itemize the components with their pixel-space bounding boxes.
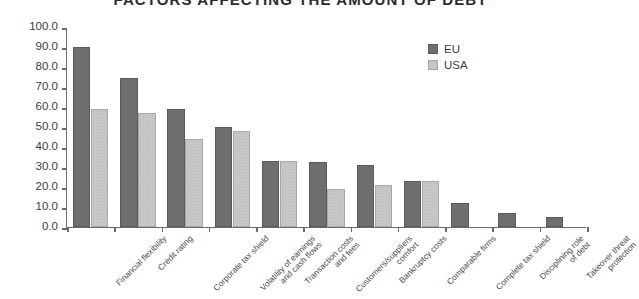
- bar-usa: [327, 189, 345, 227]
- x-axis-label: Complete tax shield: [495, 234, 553, 292]
- legend-swatch-eu: [428, 44, 438, 54]
- x-axis-tick-mark: [67, 227, 69, 232]
- chart-title: FACTORS AFFECTING THE AMOUNT OF DEBT: [0, 0, 601, 8]
- bar-eu: [73, 47, 91, 227]
- bar-eu: [167, 109, 185, 227]
- legend-swatch-usa: [428, 60, 438, 70]
- y-axis-tick-label: 10.0: [36, 200, 58, 212]
- y-axis-tick-label: 70.0: [36, 80, 58, 92]
- y-axis-tick-label: 100.0: [29, 20, 58, 32]
- y-axis-tick-label: 40.0: [36, 140, 58, 152]
- bar-group: [209, 28, 256, 227]
- y-axis-tick-label: 30.0: [36, 160, 58, 172]
- y-axis-tick-label: 60.0: [36, 100, 58, 112]
- bar-usa: [138, 113, 156, 227]
- bar-eu: [404, 181, 422, 227]
- bar-eu: [309, 162, 327, 227]
- x-axis-tick-mark: [209, 227, 211, 232]
- x-axis-tick-mark: [351, 227, 353, 232]
- bar-eu: [262, 161, 280, 227]
- bar-group: [351, 28, 398, 227]
- bar-group: [492, 28, 539, 227]
- plot-area: 100.090.080.070.060.050.040.030.020.010.…: [66, 28, 586, 228]
- y-axis-tick-label: 20.0: [36, 180, 58, 192]
- y-axis-tick-label: 50.0: [36, 120, 58, 132]
- y-axis-tick-label: 80.0: [36, 60, 58, 72]
- bar-usa: [422, 181, 440, 227]
- bar-usa: [375, 185, 393, 227]
- x-axis-tick-mark: [162, 227, 164, 232]
- bar-group: [256, 28, 303, 227]
- bar-usa: [91, 109, 109, 227]
- y-axis-tick-label: 90.0: [36, 40, 58, 52]
- bar-usa: [280, 161, 298, 227]
- legend-label: EU: [444, 43, 460, 55]
- x-axis-tick-mark: [256, 227, 258, 232]
- x-axis-tick-mark: [114, 227, 116, 232]
- bar-usa: [185, 139, 203, 227]
- x-axis-label: Takeover threatprotection: [585, 234, 639, 288]
- y-axis-tick-label: 0.0: [42, 220, 58, 232]
- x-axis-labels: Financial flexibilityCredit ratingCorpor…: [66, 234, 586, 299]
- bar-group: [114, 28, 161, 227]
- x-axis-tick-mark: [492, 227, 494, 232]
- bar-eu: [215, 127, 233, 227]
- x-axis-tick-mark: [540, 227, 542, 232]
- bar-group: [540, 28, 587, 227]
- bar-eu: [120, 78, 138, 227]
- bar-group: [162, 28, 209, 227]
- legend-item: USA: [428, 58, 468, 72]
- x-axis-tick-mark: [587, 227, 589, 232]
- chart-legend: EUUSA: [428, 42, 468, 74]
- bar-eu: [451, 203, 469, 227]
- bars-layer: [67, 28, 586, 227]
- legend-item: EU: [428, 42, 468, 56]
- x-axis-tick-mark: [398, 227, 400, 232]
- bar-group: [303, 28, 350, 227]
- bar-usa: [233, 131, 251, 227]
- x-axis-tick-mark: [303, 227, 305, 232]
- x-axis-label: Comparable firms: [445, 234, 498, 287]
- legend-label: USA: [444, 59, 468, 71]
- x-axis-tick-mark: [445, 227, 447, 232]
- bar-eu: [498, 213, 516, 227]
- bar-eu: [357, 165, 375, 227]
- bar-eu: [546, 217, 564, 227]
- bar-group: [67, 28, 114, 227]
